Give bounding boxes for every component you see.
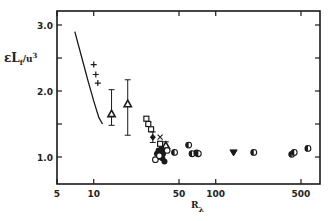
triangle-marker <box>108 110 115 117</box>
plus-marker <box>93 72 99 78</box>
plot-border <box>57 11 320 184</box>
x-tick-label: 10 <box>87 189 100 199</box>
data-series <box>75 32 311 165</box>
theory-curve <box>75 32 103 124</box>
plus-marker <box>91 62 97 68</box>
x-marker <box>158 135 163 140</box>
open-circle-marker <box>157 153 163 159</box>
filled-circle-marker <box>161 159 167 165</box>
y-axis-label: εLf/u3 <box>4 51 38 67</box>
x-axis-ticks: 51050100500 <box>54 11 311 199</box>
open-circle-marker <box>164 148 170 154</box>
x-tick-label: 50 <box>173 189 186 199</box>
diamond-marker <box>150 134 156 141</box>
square-marker <box>149 127 154 132</box>
y-tick-label: 2.0 <box>37 87 53 97</box>
y-tick-label: 3.0 <box>37 21 53 31</box>
triangle-marker <box>124 100 131 107</box>
y-axis-ticks: 1.02.03.0 <box>37 21 320 163</box>
plot-frame <box>57 11 320 184</box>
plus-marker <box>95 80 101 86</box>
y-tick-label: 1.0 <box>37 153 53 163</box>
x-tick-label: 5 <box>54 189 60 199</box>
inverted-triangle-marker <box>230 150 237 156</box>
x-axis-label: Rλ <box>191 200 204 214</box>
x-tick-label: 500 <box>292 189 311 199</box>
chart: 51050100500 1.02.03.0 Rλ εLf/u3 <box>0 0 331 221</box>
square-marker <box>158 141 163 146</box>
x-tick-label: 100 <box>206 189 225 199</box>
square-marker <box>146 122 151 127</box>
square-marker <box>144 116 149 121</box>
